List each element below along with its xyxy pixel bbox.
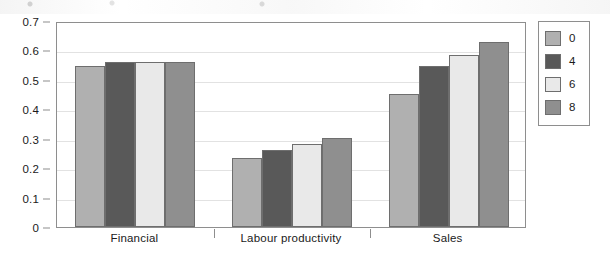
legend-label: 0 (569, 33, 575, 45)
legend-label: 4 (569, 56, 575, 68)
chart-root: 00.10.20.30.40.50.60.7 FinancialLabour p… (0, 0, 610, 259)
y-tick-mark (43, 51, 50, 52)
y-tick-label: 0.3 (22, 134, 39, 146)
legend-label: 8 (569, 102, 575, 114)
legend-item: 4 (545, 50, 589, 73)
y-tick-label: 0.2 (22, 163, 39, 175)
legend-swatch (545, 77, 561, 92)
y-tick-mark (43, 198, 50, 199)
y-tick-mark (43, 139, 50, 140)
legend-item: 6 (545, 73, 589, 96)
y-tick-label: 0.1 (22, 193, 39, 205)
x-category-label: Financial (110, 232, 158, 244)
legend-item: 0 (545, 27, 589, 50)
y-tick-mark (43, 228, 50, 229)
x-category-label: Sales (433, 232, 463, 244)
y-tick-mark (43, 110, 50, 111)
plot-area (56, 22, 526, 228)
y-tick-label: 0.4 (22, 104, 39, 116)
legend-item: 8 (545, 96, 589, 119)
y-tick-label: 0.6 (22, 45, 39, 57)
x-axis-separators (57, 23, 525, 227)
x-axis-labels: FinancialLabour productivitySales (56, 232, 526, 254)
y-tick-label: 0.5 (22, 75, 39, 87)
y-tick-mark (43, 22, 50, 23)
y-tick-label: 0.7 (22, 16, 39, 28)
legend-label: 6 (569, 79, 575, 91)
legend-swatch (545, 31, 561, 46)
legend-swatch (545, 54, 561, 69)
y-axis: 00.10.20.30.40.50.60.7 (0, 22, 50, 228)
x-category-label: Labour productivity (241, 232, 342, 244)
y-tick-mark (43, 169, 50, 170)
scan-artifact (0, 0, 610, 14)
legend: 0468 (538, 21, 590, 126)
y-tick-mark (43, 80, 50, 81)
y-tick-label: 0 (32, 222, 39, 234)
legend-swatch (545, 100, 561, 115)
